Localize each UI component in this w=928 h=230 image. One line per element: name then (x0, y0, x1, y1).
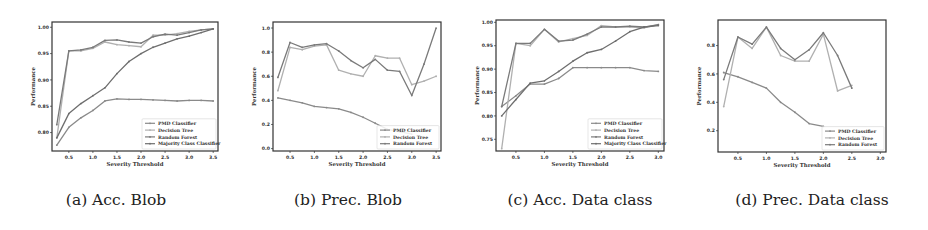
caption-c: (c) Acc. Data class (464, 191, 696, 209)
y-axis-label: Performance (696, 66, 702, 105)
legend-label: Decision Tree (838, 136, 873, 141)
y-tick-label: 0.4 (707, 100, 715, 105)
series-pmd-classifier (723, 72, 824, 128)
series-random-forest (723, 26, 853, 89)
y-tick-label: 0.90 (38, 78, 49, 83)
x-tick-label: 1.0 (540, 155, 548, 160)
x-tick-label: 0.5 (65, 155, 73, 160)
x-tick-label: 0.5 (512, 155, 520, 160)
series-decision-tree (277, 44, 437, 92)
x-tick-label: 0.5 (734, 156, 742, 161)
caption-b: (b) Prec. Blob (232, 191, 464, 209)
legend-label: Decision Tree (393, 135, 428, 140)
series-random-forest (501, 24, 659, 108)
legend-label: Random Forest (158, 135, 198, 140)
legend-label: PMD Classifier (158, 121, 197, 126)
y-tick-label: 0.6 (707, 72, 715, 77)
legend: PMD ClassifierDecision TreeRandom Forest… (588, 119, 667, 149)
y-tick-label: 0.0 (262, 146, 270, 151)
y-tick-label: 1.0 (262, 26, 270, 31)
y-axis-label: Performance (251, 67, 257, 106)
legend-label: PMD Classifier (838, 129, 877, 134)
legend-label: Random Forest (838, 142, 878, 147)
legend-label: PMD Classifier (604, 121, 643, 126)
chart-c: 0.51.01.52.02.53.00.750.800.850.900.951.… (464, 0, 696, 190)
x-tick-label: 3.0 (876, 156, 884, 161)
chart-a: 0.51.01.52.02.53.03.50.800.850.900.951.0… (0, 0, 232, 190)
legend-label: Decision Tree (604, 128, 639, 133)
y-tick-label: 0.8 (262, 50, 270, 55)
y-axis-label: Performance (30, 67, 36, 106)
y-tick-label: 0.8 (707, 43, 715, 48)
y-tick-label: 1.00 (38, 25, 49, 30)
series-decision-tree (723, 26, 853, 107)
y-tick-label: 0.95 (38, 51, 49, 56)
x-tick-label: 2.0 (597, 155, 605, 160)
x-axis-label: Severity Threshold (329, 161, 386, 168)
y-tick-label: 0.85 (38, 104, 49, 109)
x-axis-label: Severity Threshold (107, 161, 164, 168)
figure-panel-d: 0.51.01.52.02.53.00.20.40.60.8Severity T… (696, 0, 928, 230)
y-tick-label: 0.90 (482, 67, 493, 72)
chart-b: 0.51.01.52.02.53.03.50.00.20.40.60.81.0S… (232, 0, 464, 190)
y-tick-label: 0.85 (482, 90, 493, 95)
x-tick-label: 1.0 (89, 155, 97, 160)
caption-d: (d) Prec. Data class (696, 191, 928, 209)
x-tick-label: 1.0 (310, 155, 318, 160)
y-tick-label: 0.6 (262, 74, 270, 79)
figure-panel-b: 0.51.01.52.02.53.03.50.00.20.40.60.81.0S… (232, 0, 464, 230)
legend-label: Random Forest (393, 141, 433, 146)
x-tick-label: 3.0 (654, 155, 662, 160)
x-tick-label: 0.5 (286, 155, 294, 160)
figure-panel-c: 0.51.01.52.02.53.00.750.800.850.900.951.… (464, 0, 696, 230)
legend-label: Random Forest (604, 135, 644, 140)
legend-label: PMD Classifier (393, 128, 432, 133)
y-tick-label: 0.80 (482, 114, 493, 119)
x-tick-label: 2.0 (819, 156, 827, 161)
x-tick-label: 2.5 (161, 155, 169, 160)
x-tick-label: 2.5 (383, 155, 391, 160)
x-tick-label: 2.5 (626, 155, 634, 160)
x-tick-label: 3.0 (185, 155, 193, 160)
y-tick-label: 0.4 (262, 98, 270, 103)
caption-a: (a) Acc. Blob (0, 191, 232, 209)
x-tick-label: 2.5 (848, 156, 856, 161)
x-axis-label: Severity Threshold (552, 161, 609, 168)
y-tick-label: 0.75 (482, 137, 493, 142)
x-tick-label: 1.5 (791, 156, 799, 161)
x-tick-label: 1.5 (335, 155, 343, 160)
x-tick-label: 3.0 (408, 155, 416, 160)
x-tick-label: 1.0 (762, 156, 770, 161)
legend: PMD ClassifierDecision TreeRandom Forest (377, 126, 439, 149)
y-tick-label: 0.2 (262, 122, 270, 127)
legend: PMD ClassifierDecision TreeRandom Forest… (142, 119, 221, 149)
x-tick-label: 2.0 (359, 155, 367, 160)
figure-panel-a: 0.51.01.52.02.53.03.50.800.850.900.951.0… (0, 0, 232, 230)
x-axis-label: Severity Threshold (774, 162, 831, 169)
series-random-forest (56, 28, 214, 126)
legend: PMD ClassifierDecision TreeRandom Forest (822, 127, 884, 150)
y-tick-label: 0.95 (482, 43, 493, 48)
legend-label: Decision Tree (158, 128, 193, 133)
x-tick-label: 1.5 (113, 155, 121, 160)
y-tick-label: 1.00 (482, 20, 493, 25)
x-tick-label: 3.5 (209, 155, 217, 160)
x-tick-label: 2.0 (137, 155, 145, 160)
y-tick-label: 0.2 (707, 128, 715, 133)
x-tick-label: 1.5 (569, 155, 577, 160)
x-tick-label: 3.5 (432, 155, 440, 160)
series-random-forest (277, 27, 437, 96)
series-majority-class-classifier (501, 25, 659, 117)
y-axis-label: Performance (474, 66, 480, 105)
chart-d: 0.51.01.52.02.53.00.20.40.60.8Severity T… (696, 0, 928, 190)
series-pmd-classifier (501, 67, 659, 108)
y-tick-label: 0.80 (38, 130, 49, 135)
